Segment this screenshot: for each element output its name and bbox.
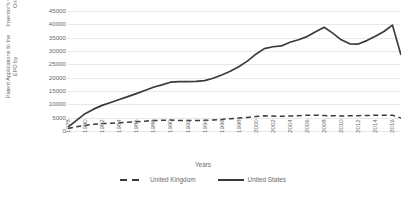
series-line-united-states [68, 25, 401, 127]
x-axis-tick-label: 1996 [218, 119, 224, 133]
x-axis-tick-label: 1990 [167, 119, 173, 133]
x-axis-tick-label: 2010 [338, 119, 344, 133]
x-axis-tick-label: 2002 [270, 119, 276, 133]
legend-entry-united-kingdom[interactable]: United Kingdom [120, 176, 195, 183]
legend-label-united-states: United States [248, 176, 286, 183]
y-axis-title-line-2: Inventor's Country of Origin [5, 0, 20, 30]
y-axis-tick-label: 25000 [30, 61, 66, 67]
x-axis-tick-label: 1994 [201, 119, 207, 133]
dashed-line-icon [120, 176, 146, 183]
legend-label-united-kingdom: United Kingdom [150, 176, 195, 183]
x-axis-tick-label: 1978 [65, 119, 71, 133]
x-axis-tick-label: 1998 [236, 119, 242, 133]
x-axis-tick-label: 2006 [304, 119, 310, 133]
plot-area [68, 11, 401, 131]
x-axis-tick-label: 1988 [150, 119, 156, 133]
y-axis-title-line-1: Patent Applications to the EPO by [5, 30, 20, 103]
y-axis-tick-label: 0 [30, 128, 66, 134]
x-axis-tick-label: 2000 [253, 119, 259, 133]
legend-entry-united-states[interactable]: United States [218, 176, 286, 183]
x-axis-tick-label: 1992 [184, 119, 190, 133]
x-axis-tick-label: 1986 [133, 119, 139, 133]
y-axis-tick-label: 30000 [30, 48, 66, 54]
x-axis-title: Years [0, 161, 406, 168]
solid-line-icon [218, 176, 244, 183]
y-axis-tick-label: 10000 [30, 101, 66, 107]
y-axis-tick-label: 35000 [30, 35, 66, 41]
y-axis-tick-label: 5000 [30, 115, 66, 121]
series-layer [68, 11, 401, 131]
x-axis-tick-label: 2016 [389, 119, 395, 133]
x-axis-tick-label: 2014 [372, 119, 378, 133]
y-axis-tick-label: 20000 [30, 75, 66, 81]
x-axis-tick-label: 2004 [287, 119, 293, 133]
y-axis-tick-label: 45000 [30, 8, 66, 14]
x-axis-tick-label: 2012 [355, 119, 361, 133]
y-axis-tick-label: 40000 [30, 21, 66, 27]
line-chart: Patent Applications to the EPO by Invent… [0, 0, 406, 202]
x-axis-tick-label: 1984 [116, 119, 122, 133]
chart-legend: United Kingdom United States [0, 176, 406, 183]
x-axis-tick-labels: 1978198019821984198619881990199219941996… [68, 133, 401, 161]
y-axis-title: Patent Applications to the EPO by Invent… [1, 0, 23, 103]
y-axis-tick-label: 15000 [30, 88, 66, 94]
x-axis-tick-label: 1980 [82, 119, 88, 133]
x-axis-tick-label: 1982 [99, 119, 105, 133]
y-axis-tick-labels: 4500040000350003000025000200001500010000… [30, 0, 66, 140]
x-axis-tick-label: 2008 [321, 119, 327, 133]
